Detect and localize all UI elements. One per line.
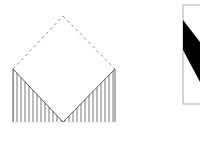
right-figure — [183, 5, 200, 104]
dashed-edge-left — [13, 16, 63, 69]
diagram-canvas — [0, 0, 200, 145]
left-figure — [13, 16, 115, 122]
dashed-edge-right — [63, 16, 115, 69]
